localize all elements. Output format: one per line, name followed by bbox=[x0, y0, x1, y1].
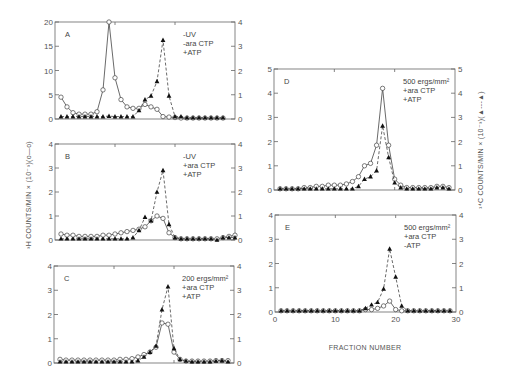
open-circle-marker bbox=[374, 143, 378, 147]
filled-triangle-marker bbox=[119, 236, 124, 240]
legend-entry: +ara CTP bbox=[182, 283, 214, 292]
right-y-tick-label: 1 bbox=[238, 91, 243, 100]
series-3h-line bbox=[61, 22, 223, 118]
left-y-tick-label: 4 bbox=[49, 140, 54, 149]
right-y-tick-label: 3 bbox=[458, 113, 463, 122]
right-y-tick-label: 4 bbox=[237, 262, 242, 271]
legend-entry: 200 ergs/mm² bbox=[182, 274, 229, 283]
left-y-tick-label: 0 bbox=[48, 359, 53, 368]
legend-entry: +ara CTP bbox=[183, 161, 215, 170]
open-circle-marker bbox=[131, 228, 135, 232]
left-y-tick-label: 0 bbox=[49, 236, 54, 245]
panel-letter: B bbox=[65, 152, 70, 161]
right-y-tick-label: 4 bbox=[459, 211, 464, 220]
series-14c-line bbox=[281, 249, 450, 311]
legend-entry: 500 ergs/mm² bbox=[403, 77, 450, 86]
x-tick-label: 0 bbox=[273, 315, 278, 324]
left-y-tick-label: 4 bbox=[268, 89, 273, 98]
right-y-tick-label: 0 bbox=[237, 359, 242, 368]
right-y-tick-label: 1 bbox=[238, 212, 243, 221]
left-y-tick-label: 3 bbox=[268, 113, 273, 122]
legend-entry: +ATP bbox=[403, 95, 421, 104]
left-y-tick-label: 3 bbox=[49, 164, 54, 173]
right-y-axis-label: ¹⁴C COUNTS/MIN × (10⁻³)(▲---▲) bbox=[477, 91, 485, 209]
legend-entry: +ATP bbox=[183, 48, 201, 57]
panel-letter: A bbox=[65, 30, 70, 39]
filled-triangle-marker bbox=[143, 97, 148, 101]
left-y-tick-label: 0 bbox=[268, 186, 273, 195]
open-circle-marker bbox=[65, 105, 69, 109]
panel-e: 01234012340102030E500 ergs/mm²+ara CTP-A… bbox=[269, 211, 464, 324]
right-y-tick-label: 4 bbox=[238, 18, 243, 27]
open-circle-marker bbox=[369, 307, 373, 311]
right-y-tick-label: 0 bbox=[238, 236, 243, 245]
filled-triangle-marker bbox=[131, 235, 136, 239]
open-circle-marker bbox=[113, 76, 117, 80]
legend-entry: 500 ergs/mm² bbox=[404, 223, 451, 232]
open-circle-marker bbox=[350, 179, 354, 183]
open-circle-marker bbox=[155, 107, 159, 111]
left-y-tick-label: 1 bbox=[269, 284, 274, 293]
left-y-tick-label: 20 bbox=[44, 18, 53, 27]
series-14c-line bbox=[60, 287, 228, 362]
filled-triangle-marker bbox=[399, 303, 404, 307]
right-y-tick-label: 2 bbox=[237, 311, 242, 320]
panel-letter: C bbox=[64, 274, 70, 283]
x-tick-label: 10 bbox=[331, 315, 340, 324]
right-y-tick-label: 1 bbox=[459, 284, 464, 293]
right-y-tick-label: 5 bbox=[458, 65, 463, 74]
legend-entry: +ara CTP bbox=[404, 232, 436, 241]
left-y-tick-label: 3 bbox=[269, 235, 274, 244]
filled-triangle-marker bbox=[155, 189, 160, 193]
legend-entry: -ATP bbox=[404, 241, 421, 250]
filled-triangle-marker bbox=[381, 286, 386, 290]
right-y-tick-label: 3 bbox=[237, 286, 242, 295]
legend-entry: -UV bbox=[183, 30, 196, 39]
open-circle-marker bbox=[113, 232, 117, 236]
filled-triangle-marker bbox=[380, 123, 385, 127]
left-y-tick-label: 10 bbox=[44, 67, 53, 76]
left-y-tick-label: 2 bbox=[48, 311, 53, 320]
left-y-tick-label: 5 bbox=[49, 91, 54, 100]
open-circle-marker bbox=[125, 229, 129, 233]
open-circle-marker bbox=[386, 143, 390, 147]
right-y-tick-label: 2 bbox=[238, 188, 243, 197]
open-circle-marker bbox=[387, 299, 391, 303]
right-y-tick-label: 2 bbox=[238, 67, 243, 76]
open-circle-marker bbox=[125, 105, 129, 109]
panel-letter: D bbox=[284, 77, 290, 86]
legend-entry: +ATP bbox=[183, 170, 201, 179]
filled-triangle-marker bbox=[369, 302, 374, 306]
right-y-tick-label: 0 bbox=[458, 186, 463, 195]
x-tick-label: 30 bbox=[452, 315, 461, 324]
filled-triangle-marker bbox=[375, 300, 380, 304]
open-circle-marker bbox=[375, 306, 379, 310]
open-circle-marker bbox=[381, 304, 385, 308]
open-circle-marker bbox=[119, 231, 123, 235]
open-circle-marker bbox=[59, 232, 63, 236]
left-y-tick-label: 15 bbox=[44, 42, 53, 51]
open-circle-marker bbox=[344, 182, 348, 186]
right-y-tick-label: 3 bbox=[238, 42, 243, 51]
series-14c-line bbox=[61, 170, 235, 240]
panel-b: 0123401234B-UV+ara CTP+ATP bbox=[49, 140, 243, 245]
filled-triangle-marker bbox=[344, 186, 349, 190]
legend-entry: +ara CTP bbox=[403, 86, 435, 95]
open-circle-marker bbox=[155, 214, 159, 218]
filled-triangle-marker bbox=[161, 38, 166, 42]
open-circle-marker bbox=[161, 216, 165, 220]
right-y-tick-label: 3 bbox=[238, 164, 243, 173]
left-y-tick-label: 0 bbox=[49, 115, 54, 124]
filled-triangle-marker bbox=[167, 222, 172, 226]
filled-triangle-marker bbox=[387, 246, 392, 250]
open-circle-marker bbox=[143, 225, 147, 229]
right-y-tick-label: 2 bbox=[458, 138, 463, 147]
open-circle-marker bbox=[59, 95, 63, 99]
filled-triangle-marker bbox=[167, 93, 172, 97]
open-circle-marker bbox=[167, 231, 171, 235]
panel-letter: E bbox=[285, 223, 290, 232]
filled-triangle-marker bbox=[113, 236, 118, 240]
legend-entry: -ara CTP bbox=[183, 39, 213, 48]
x-axis-label: FRACTION NUMBER bbox=[329, 344, 402, 351]
right-y-tick-label: 0 bbox=[238, 115, 243, 124]
